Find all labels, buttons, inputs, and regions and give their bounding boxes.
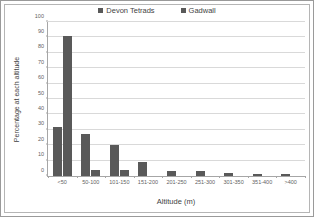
bar xyxy=(253,174,262,176)
chart-container: Devon TetradsGadwall Percentage at each … xyxy=(4,4,310,213)
legend-item-label: Gadwall xyxy=(189,7,216,15)
legend-item-label: Devon Tetrads xyxy=(106,7,154,15)
x-axis-tick-label: 351-400 xyxy=(248,179,277,185)
bars-row xyxy=(191,22,220,176)
bar xyxy=(63,36,72,176)
y-axis-tick-label: 50 xyxy=(38,91,44,97)
bar xyxy=(281,174,290,176)
x-axis-tick-label: 201-250 xyxy=(162,179,191,185)
y-axis-tick-label: 70 xyxy=(38,60,44,66)
bars-row xyxy=(162,22,191,176)
x-axis-tick-label: 50-100 xyxy=(77,179,106,185)
x-axis-tick-label: <50 xyxy=(48,179,77,185)
y-axis-tick-label: 10 xyxy=(38,152,44,158)
x-axis-tick-label: 101-150 xyxy=(105,179,134,185)
x-axis-title: Altitude (m) xyxy=(47,197,305,206)
x-axis-tick-mark xyxy=(162,176,163,178)
bars-row xyxy=(105,22,134,176)
bars-row xyxy=(134,22,163,176)
bar xyxy=(167,171,176,176)
bar xyxy=(138,162,147,176)
bar-group: <50 xyxy=(48,22,77,176)
x-axis-tick-mark xyxy=(248,176,249,178)
chart-legend: Devon TetradsGadwall xyxy=(5,5,309,15)
y-axis-tick-label: 40 xyxy=(38,106,44,112)
bar xyxy=(91,170,100,176)
bar-group: 151-200 xyxy=(134,22,163,176)
bar xyxy=(110,145,119,176)
bar-group: 201-250 xyxy=(162,22,191,176)
bar xyxy=(81,134,90,176)
legend-item: Devon Tetrads xyxy=(98,7,154,15)
bar xyxy=(120,170,129,176)
x-axis-tick-label: 151-200 xyxy=(134,179,163,185)
x-axis-tick-mark xyxy=(48,176,49,178)
plot-area: 0102030405060708090100 <5050-100101-1501… xyxy=(47,22,305,177)
x-axis-tick-mark xyxy=(105,176,106,178)
bars-row xyxy=(276,22,305,176)
x-axis-tick-mark xyxy=(191,176,192,178)
bars-row xyxy=(48,22,77,176)
bar-group: 251-300 xyxy=(191,22,220,176)
chart-screenshot: Devon TetradsGadwall Percentage at each … xyxy=(0,0,314,217)
bar xyxy=(196,171,205,176)
y-axis-tick-label: 60 xyxy=(38,75,44,81)
bar-group: 101-150 xyxy=(105,22,134,176)
legend-swatch-icon xyxy=(181,8,186,13)
y-axis-tick-label: 100 xyxy=(35,14,44,20)
bar xyxy=(53,127,62,176)
x-axis-tick-mark xyxy=(134,176,135,178)
x-axis-tick-label: >400 xyxy=(276,179,305,185)
y-axis-tick-label: 20 xyxy=(38,137,44,143)
x-axis-tick-label: 251-300 xyxy=(191,179,220,185)
bars-row xyxy=(248,22,277,176)
bar-group: 351-400 xyxy=(248,22,277,176)
bars-row xyxy=(77,22,106,176)
bar-group: 50-100 xyxy=(77,22,106,176)
bar-group: >400 xyxy=(276,22,305,176)
y-axis-tick-label: 90 xyxy=(38,29,44,35)
legend-swatch-icon xyxy=(98,8,103,13)
x-axis-tick-mark xyxy=(77,176,78,178)
legend-item: Gadwall xyxy=(181,7,216,15)
y-axis-tick-label: 30 xyxy=(38,122,44,128)
x-axis-tick-label: 301-350 xyxy=(219,179,248,185)
x-axis-tick-mark xyxy=(276,176,277,178)
y-axis-title: Percentage at each altitude xyxy=(11,22,23,177)
y-axis-tick-label: 0 xyxy=(41,168,44,174)
bar-group: 301-350 xyxy=(219,22,248,176)
bars-row xyxy=(219,22,248,176)
x-axis-tick-mark xyxy=(305,176,306,178)
x-axis-tick-mark xyxy=(219,176,220,178)
y-axis-tick-label: 80 xyxy=(38,45,44,51)
bar xyxy=(224,173,233,176)
